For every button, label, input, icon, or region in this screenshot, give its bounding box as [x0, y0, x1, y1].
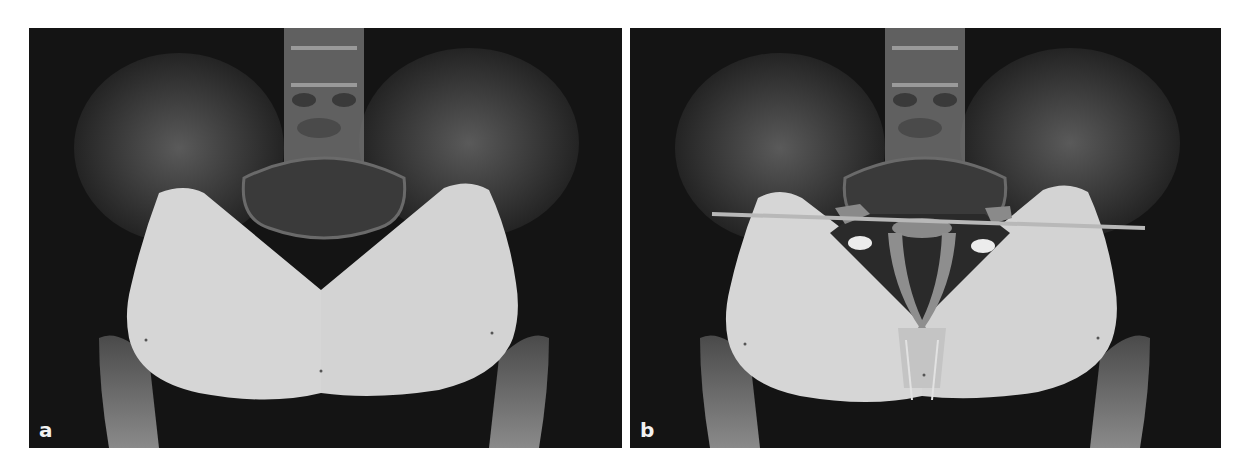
pelvic-inlet — [243, 158, 404, 238]
radiograph-b — [630, 28, 1221, 448]
template-marker — [491, 332, 494, 335]
template-marker — [320, 370, 323, 373]
figure-panel-b: b — [630, 28, 1221, 448]
template-marker — [1097, 337, 1100, 340]
acetabulum-marker-left — [848, 236, 872, 250]
template-marker — [145, 339, 148, 342]
lumbar-spine — [284, 28, 364, 178]
figure-panel-a: a — [29, 28, 622, 448]
template-marker — [744, 343, 747, 346]
lumbar-spine — [885, 28, 965, 178]
panel-label-b: b — [640, 420, 654, 440]
acetabulum-marker-right — [971, 239, 995, 253]
template-marker — [923, 374, 926, 377]
panel-label-a: a — [39, 420, 53, 440]
radiograph-a — [29, 28, 622, 448]
